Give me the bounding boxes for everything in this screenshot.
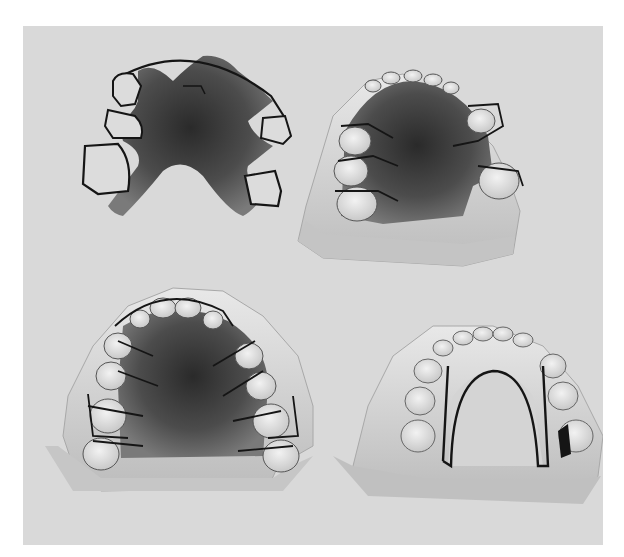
cast-top-right	[298, 70, 523, 266]
cast-bottom-left	[45, 288, 313, 491]
cast-bottom-right	[333, 326, 603, 504]
dental-appliances-photo	[23, 26, 603, 545]
appliance-top-left	[83, 56, 291, 216]
clasp-wire	[245, 171, 281, 206]
clasp-wire	[83, 144, 129, 194]
clasp-wire	[113, 73, 141, 106]
clasp-wire	[261, 116, 291, 144]
